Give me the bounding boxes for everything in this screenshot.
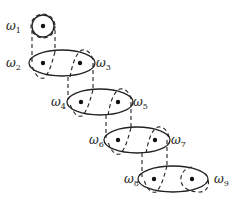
ellipse-w4-w5 <box>67 89 133 115</box>
dashed-arc-w7 <box>146 127 169 153</box>
dot-w5 <box>116 100 120 104</box>
label-w8: ω8 <box>124 172 139 188</box>
label-w6: ω6 <box>89 133 104 149</box>
label-w9: ω9 <box>214 172 229 188</box>
dot-w3 <box>78 61 82 65</box>
label-w3: ω3 <box>96 56 111 72</box>
dot-w2 <box>41 61 45 65</box>
dot-w1 <box>41 24 45 28</box>
dot-w6 <box>116 138 120 142</box>
label-w7: ω7 <box>171 133 186 149</box>
label-w5: ω5 <box>133 95 148 111</box>
dashed-arc-w9 <box>181 167 209 192</box>
dot-w9 <box>190 177 194 181</box>
label-w1: ω1 <box>6 19 21 35</box>
ellipse-w2-w3 <box>29 50 95 76</box>
dot-w4 <box>79 100 83 104</box>
ellipse-w6-w7 <box>104 127 170 153</box>
label-w4: ω4 <box>51 95 66 111</box>
dot-w8 <box>152 177 156 181</box>
ellipse-chain-diagram: ω1 ω2 ω3 ω4 ω5 ω6 ω7 ω8 ω9 <box>0 0 238 203</box>
dot-w7 <box>153 138 157 142</box>
label-w2: ω2 <box>6 56 21 72</box>
